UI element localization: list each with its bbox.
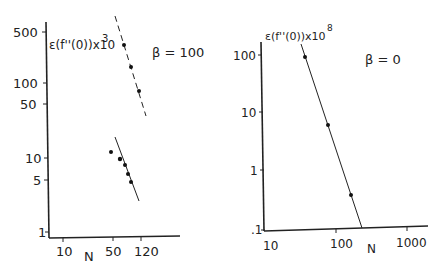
svg-text:50: 50 [20, 97, 37, 112]
right-chart [258, 42, 428, 233]
svg-text:100: 100 [13, 76, 38, 91]
left-ytick-500: 500 [13, 25, 38, 40]
right-ylabel: ε(f''(0))x10 [265, 30, 326, 43]
right-beta-annotation: β = 0 [365, 52, 401, 67]
svg-text:.1: .1 [251, 223, 262, 237]
right-xlabel: N [367, 242, 376, 256]
figure: 500 100 50 10 5 1 10 50 120 N ε(f''(0))x… [0, 0, 441, 273]
left-xlabel: N [84, 249, 94, 264]
svg-text:1000: 1000 [396, 236, 427, 250]
svg-text:10: 10 [263, 239, 278, 253]
right-x-axis [264, 226, 428, 231]
left-y-axis [46, 22, 49, 238]
svg-text:3: 3 [102, 33, 108, 44]
svg-text:50: 50 [105, 244, 122, 259]
right-fit-line [301, 44, 362, 228]
svg-text:5: 5 [33, 173, 41, 188]
right-points [303, 55, 353, 197]
svg-text:10: 10 [25, 151, 42, 166]
svg-text:1: 1 [250, 164, 258, 178]
right-y-axis [261, 42, 264, 231]
svg-text:1: 1 [38, 225, 46, 240]
lower-fit-line [115, 137, 139, 201]
left-beta-annotation: β = 100 [152, 45, 204, 60]
svg-text:8: 8 [327, 23, 333, 33]
svg-text:10: 10 [241, 106, 256, 120]
svg-text:120: 120 [134, 244, 159, 259]
svg-text:100: 100 [233, 49, 256, 63]
left-labels: 500 100 50 10 5 1 10 50 120 N ε(f''(0))x… [13, 25, 204, 264]
svg-text:10: 10 [56, 244, 73, 259]
svg-text:100: 100 [330, 237, 353, 251]
left-x-axis [49, 236, 180, 238]
